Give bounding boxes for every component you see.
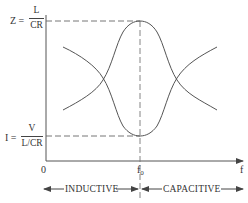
z-label-lhs: Z =	[10, 16, 24, 26]
i-fraction: V L/CR	[21, 124, 43, 148]
i-label-lhs: I =	[5, 133, 16, 143]
z-fraction: L CR	[29, 6, 44, 30]
f0-label: f0	[137, 165, 144, 177]
x-axis-label: f	[240, 165, 243, 175]
f0-label-subscript: 0	[140, 169, 144, 177]
z-numerator: L	[29, 6, 44, 19]
i-numerator: V	[21, 124, 43, 137]
resonance-diagram	[0, 0, 248, 203]
origin-label: 0	[41, 165, 46, 175]
i-denominator: L/CR	[21, 137, 43, 149]
inductive-region-label: INDUCTIVE	[65, 184, 119, 194]
z-denominator: CR	[29, 19, 44, 31]
capacitive-region-label: CAPACITIVE	[163, 184, 221, 194]
